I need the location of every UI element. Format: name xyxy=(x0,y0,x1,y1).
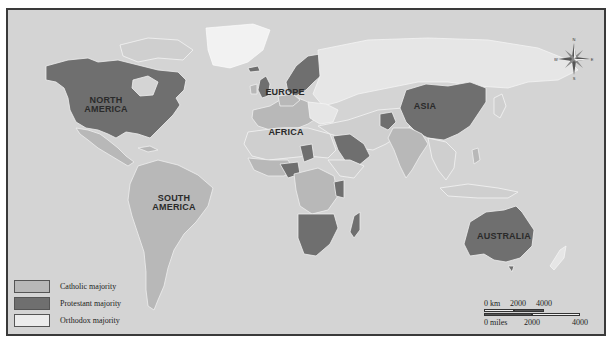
legend-label: Protestant majority xyxy=(60,299,121,308)
legend-item-catholic: Catholic majority xyxy=(14,278,121,295)
madagascar xyxy=(350,212,360,238)
scale-mi-bar-light xyxy=(532,313,580,316)
legend-item-orthodox: Orthodox majority xyxy=(14,312,121,329)
tasmania xyxy=(508,266,514,272)
caribbean xyxy=(138,146,158,152)
scale-mi-bar-dark xyxy=(484,313,532,316)
swatch-protestant xyxy=(14,297,50,310)
legend: Catholic majority Protestant majority Or… xyxy=(14,278,121,329)
label-line: ASIA xyxy=(410,102,440,111)
scale-mi-4000: 4000 xyxy=(572,318,588,327)
south-america xyxy=(128,160,213,310)
kenya xyxy=(334,180,344,198)
legend-label: Catholic majority xyxy=(60,282,116,291)
label-australia: AUSTRALIA xyxy=(476,232,532,241)
scale-km-bar-dark xyxy=(514,309,544,312)
compass-e: E xyxy=(591,57,594,62)
india xyxy=(388,128,428,178)
compass-s: S xyxy=(573,76,576,80)
indonesia xyxy=(440,184,518,198)
label-asia: ASIA xyxy=(410,102,440,111)
label-line: AMERICA xyxy=(76,105,136,114)
swatch-orthodox xyxy=(14,314,50,327)
iceland xyxy=(248,66,260,72)
label-europe: EUROPE xyxy=(260,88,310,97)
central-africa xyxy=(294,168,338,214)
label-line: AUSTRALIA xyxy=(476,232,532,241)
ireland xyxy=(250,84,257,94)
scale-km-0: 0 km xyxy=(484,299,500,308)
arctic-islands xyxy=(120,38,193,62)
label-south-america: SOUTH AMERICA xyxy=(144,194,204,212)
chad-sudan xyxy=(300,144,314,162)
scale-mi-0: 0 miles xyxy=(484,318,507,327)
scale-km-bar-light xyxy=(484,309,514,312)
compass-n: N xyxy=(573,37,576,42)
scale-km-2000: 2000 xyxy=(510,299,526,308)
philippines xyxy=(472,148,480,164)
compass-w: W xyxy=(554,57,558,62)
new-zealand xyxy=(550,246,566,270)
legend-label: Orthodox majority xyxy=(60,316,120,325)
label-line: EUROPE xyxy=(260,88,310,97)
se-asia xyxy=(428,138,456,180)
scale-bar: 0 km 2000 4000 0 miles 2000 4000 xyxy=(484,299,594,329)
southern-africa xyxy=(298,214,338,256)
mexico xyxy=(76,128,134,166)
japan xyxy=(494,94,506,118)
swatch-catholic xyxy=(14,280,50,293)
scale-mi-2000: 2000 xyxy=(524,318,540,327)
legend-item-protestant: Protestant majority xyxy=(14,295,121,312)
map-frame: NORTH AMERICA SOUTH AMERICA EUROPE AFRIC… xyxy=(6,8,606,336)
label-line: AMERICA xyxy=(144,203,204,212)
label-line: AFRICA xyxy=(266,128,306,137)
label-north-america: NORTH AMERICA xyxy=(76,96,136,114)
compass-rose-icon: N S E W xyxy=(554,36,594,80)
greenland xyxy=(206,24,270,68)
scale-km-4000: 4000 xyxy=(536,299,552,308)
label-africa: AFRICA xyxy=(266,128,306,137)
